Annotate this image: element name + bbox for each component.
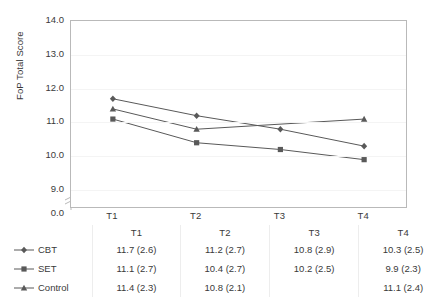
table-row: SET11.1 (2.7)10.4 (2.7)10.2 (2.5)9.9 (2.… bbox=[0, 259, 447, 278]
x-tick-label: T1 bbox=[82, 210, 142, 221]
table-corner-cell bbox=[0, 225, 93, 240]
x-tick-label: T4 bbox=[333, 210, 393, 221]
series-name-label: Control bbox=[38, 282, 69, 293]
table-column-header: T1 bbox=[93, 225, 181, 240]
series-name-label: SET bbox=[38, 263, 56, 274]
table-body: CBT11.7 (2.6)11.2 (2.7)10.8 (2.9)10.3 (2… bbox=[0, 240, 447, 297]
legend-entry-control: Control bbox=[0, 278, 93, 297]
gridline bbox=[71, 89, 406, 90]
data-point-marker bbox=[194, 140, 199, 145]
table-column-header: T3 bbox=[270, 225, 359, 240]
data-point-marker bbox=[21, 247, 27, 254]
gridline bbox=[71, 122, 406, 123]
table-cell: 11.1 (2.4) bbox=[359, 278, 447, 297]
data-point-marker bbox=[278, 147, 283, 152]
legend-entry-set: SET bbox=[0, 259, 93, 278]
data-point-marker bbox=[110, 106, 116, 112]
data-point-marker bbox=[361, 143, 367, 150]
y-tick-label: 0.0 bbox=[20, 208, 64, 218]
data-point-marker bbox=[362, 157, 367, 162]
table-row: Control11.4 (2.3)10.8 (2.1)11.1 (2.4) bbox=[0, 278, 447, 297]
gridline bbox=[71, 190, 406, 191]
legend-entry-cbt: CBT bbox=[0, 240, 93, 259]
series-lines-and-markers bbox=[71, 21, 406, 207]
table-column-header: T2 bbox=[180, 225, 269, 240]
table-cell: 10.3 (2.5) bbox=[359, 240, 447, 259]
data-point-marker bbox=[21, 267, 26, 272]
table-row: CBT11.7 (2.6)11.2 (2.7)10.8 (2.9)10.3 (2… bbox=[0, 240, 447, 259]
y-tick-label: 10.0 bbox=[20, 150, 64, 160]
data-point-marker bbox=[110, 116, 115, 121]
x-tick-label: T3 bbox=[249, 210, 309, 221]
y-tick-label: 13.0 bbox=[20, 49, 64, 59]
table-cell: 11.2 (2.7) bbox=[180, 240, 269, 259]
y-tick-label: 9.0 bbox=[20, 184, 64, 194]
table-cell: 10.8 (2.9) bbox=[270, 240, 359, 259]
gridline bbox=[71, 156, 406, 157]
table-column-header: T4 bbox=[359, 225, 447, 240]
table-cell: 10.4 (2.7) bbox=[180, 259, 269, 278]
table-cell: 11.1 (2.7) bbox=[93, 259, 181, 278]
table-cell: 9.9 (2.3) bbox=[359, 259, 447, 278]
legend-marker-triangle-icon bbox=[14, 283, 34, 293]
legend-marker-diamond-icon bbox=[14, 245, 34, 255]
table-cell: 10.2 (2.5) bbox=[270, 259, 359, 278]
y-tick-label: 14.0 bbox=[20, 15, 64, 25]
data-point-marker bbox=[194, 112, 200, 119]
table-header-row: T1T2T3T4 bbox=[0, 225, 447, 240]
data-point-marker bbox=[110, 95, 116, 102]
x-axis-tick-labels: T1T2T3T4 bbox=[70, 210, 407, 226]
data-point-marker bbox=[277, 126, 283, 133]
fop-total-score-figure: FoP Total Score 0.09.010.011.012.013.014… bbox=[0, 0, 447, 297]
y-tick-label: 11.0 bbox=[20, 116, 64, 126]
table-cell: 11.4 (2.3) bbox=[93, 278, 181, 297]
series-line-control bbox=[113, 109, 364, 129]
table-cell bbox=[270, 278, 359, 297]
gridline bbox=[71, 55, 406, 56]
series-name-label: CBT bbox=[38, 244, 57, 255]
legend-marker-square-icon bbox=[14, 264, 34, 274]
data-table: T1T2T3T4 CBT11.7 (2.6)11.2 (2.7)10.8 (2.… bbox=[0, 225, 447, 297]
y-tick-label: 12.0 bbox=[20, 83, 64, 93]
table-cell: 11.7 (2.6) bbox=[93, 240, 181, 259]
table-cell: 10.8 (2.1) bbox=[180, 278, 269, 297]
plot-area bbox=[70, 20, 407, 208]
x-tick-label: T2 bbox=[166, 210, 226, 221]
series-line-set bbox=[113, 119, 364, 160]
